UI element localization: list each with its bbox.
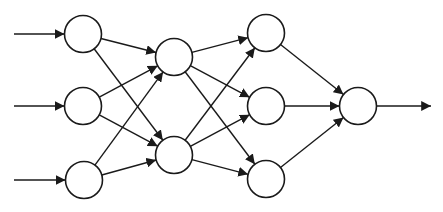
- hidden-layer-2-node: [248, 161, 285, 198]
- diagram-canvas: [0, 0, 443, 212]
- connection-edge: [99, 66, 157, 97]
- hidden-layer-2-node: [248, 88, 285, 125]
- connection-edge: [192, 38, 248, 53]
- hidden-layer-1-node: [156, 137, 193, 174]
- connection-edge: [280, 44, 343, 94]
- hidden-layer-2-node: [248, 15, 285, 52]
- neural-network-diagram: [0, 0, 443, 212]
- connection-edge: [192, 160, 248, 175]
- input-layer-node: [66, 162, 103, 199]
- connection-edge: [101, 39, 156, 53]
- connection-edge: [190, 115, 249, 147]
- hidden-layer-1-node: [156, 39, 193, 76]
- connection-edge: [280, 117, 343, 167]
- connection-edge: [190, 66, 249, 98]
- output-layer-node: [340, 88, 377, 125]
- input-layer-node: [65, 88, 102, 125]
- input-layer-node: [65, 16, 102, 53]
- connection-edge: [102, 160, 156, 175]
